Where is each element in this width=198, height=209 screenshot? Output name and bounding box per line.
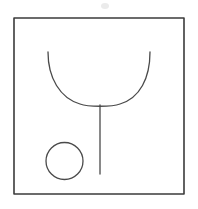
drawing-svg bbox=[0, 0, 198, 209]
canvas-background bbox=[0, 0, 198, 209]
smudge-mark bbox=[101, 3, 109, 9]
drawing-canvas bbox=[0, 0, 198, 209]
